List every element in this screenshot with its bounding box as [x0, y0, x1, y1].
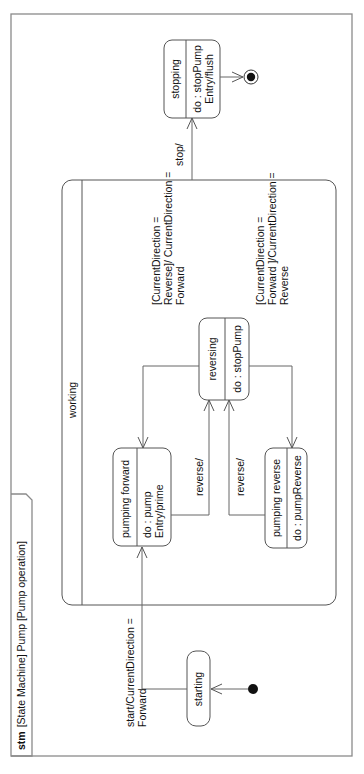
- stopping-label: stopping: [169, 59, 181, 99]
- pumping-forward-entry: Entry/prime: [153, 484, 165, 538]
- state-starting[interactable]: starting: [187, 651, 210, 726]
- pumping-reverse-label: pumping reverse: [270, 459, 282, 537]
- state-pumping-reverse[interactable]: pumping reverse do : pumpReverse: [265, 448, 307, 548]
- initial-node: [248, 684, 258, 694]
- reversing-label: reversing: [206, 337, 218, 380]
- working-label: working: [66, 382, 78, 419]
- state-stopping[interactable]: stopping do : stopPump Entry/flush: [164, 40, 220, 118]
- pumping-reverse-do: do : pumpReverse: [291, 455, 303, 541]
- frame-title: [State Machine] Pump [Pump operation]: [15, 541, 27, 727]
- stopping-entry: Entry/flush: [203, 54, 215, 104]
- pumping-forward-do: do : pump: [141, 491, 153, 538]
- pumping-forward-label: pumping forward: [119, 460, 131, 538]
- stopping-do: do : stopPump: [191, 45, 203, 113]
- transition-start-label: start/CurrentDirection = Forward: [124, 615, 148, 727]
- frame-keyword: stm: [15, 731, 27, 750]
- transition-reverse-from-forward-label: reverse/: [193, 458, 205, 496]
- frame-header: stm[State Machine] Pump [Pump operation]: [15, 541, 27, 750]
- starting-label: starting: [192, 672, 204, 707]
- final-node: [247, 73, 255, 81]
- transition-stop-label: stop/: [173, 143, 185, 166]
- transition-reverse-from-reverse-label: reverse/: [234, 458, 246, 496]
- reversing-do: do : stopPump: [231, 325, 243, 393]
- state-reversing[interactable]: reversing do : stopPump: [199, 318, 249, 400]
- state-machine-diagram: stm[State Machine] Pump [Pump operation]…: [0, 0, 364, 774]
- state-pumping-forward[interactable]: pumping forward do : pump Entry/prime: [113, 448, 171, 546]
